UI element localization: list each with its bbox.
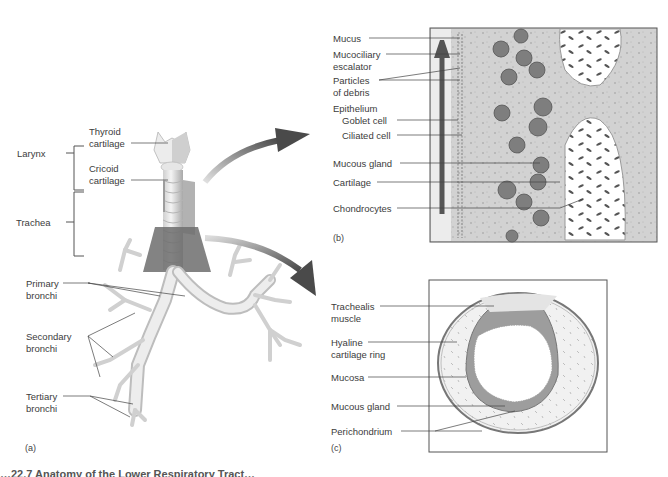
label-larynx: Larynx — [17, 148, 46, 159]
larynx-bracket — [66, 146, 84, 256]
larynx-illustration — [154, 132, 190, 172]
arrow-to-panel-b — [205, 128, 310, 182]
label-chondrocytes: Chondrocytes — [333, 203, 392, 214]
label-mucous-gland-b: Mucous gland — [333, 158, 392, 169]
panel-b-tag: (b) — [333, 233, 344, 243]
label-cartilage: Cartilage — [333, 177, 371, 188]
label-trachealis-muscle-line1: Trachealis — [331, 301, 374, 312]
label-particles-of-debris-line2: of debris — [333, 87, 369, 98]
label-mucous-gland-c: Mucous gland — [331, 401, 390, 412]
label-thyroid-cartilage-line1: Thyroid — [89, 126, 121, 137]
label-perichondrium: Perichondrium — [331, 426, 392, 437]
label-cricoid-cartilage-line1: Cricoid — [89, 163, 119, 174]
label-secondary-bronchi-line1: Secondary — [26, 331, 71, 342]
label-particles-of-debris-line1: Particles — [333, 75, 369, 86]
label-primary-bronchi-line2: bronchi — [26, 290, 57, 301]
label-trachea: Trachea — [16, 217, 51, 228]
panel-a-tag: (a) — [25, 443, 36, 453]
label-mucosa: Mucosa — [331, 372, 364, 383]
label-tertiary-bronchi-line2: bronchi — [26, 403, 57, 414]
label-secondary-bronchi-line2: bronchi — [26, 343, 57, 354]
label-hyaline-cartilage-ring-line1: Hyaline — [331, 337, 363, 348]
cross-section-plane — [143, 227, 211, 272]
label-primary-bronchi-line1: Primary — [26, 278, 59, 289]
label-thyroid-cartilage-line2: cartilage — [89, 138, 125, 149]
label-mucociliary-escalator-line2: escalator — [333, 61, 372, 72]
panel-c-tag: (c) — [331, 443, 342, 453]
label-mucociliary-escalator-line1: Mucociliary — [333, 49, 381, 60]
panel-b-micrograph — [430, 28, 657, 242]
label-hyaline-cartilage-ring-line2: cartilage ring — [331, 349, 385, 360]
label-mucus: Mucus — [333, 33, 361, 44]
label-tertiary-bronchi-line1: Tertiary — [26, 391, 57, 402]
label-ciliated-cell: Ciliated cell — [342, 130, 391, 141]
label-epithelium: Epithelium — [333, 103, 377, 114]
label-trachealis-muscle-line2: muscle — [331, 313, 361, 324]
label-goblet-cell: Goblet cell — [342, 115, 387, 126]
label-cricoid-cartilage-line2: cartilage — [89, 175, 125, 186]
figure-caption: …22.7 Anatomy of the Lower Respiratory T… — [0, 468, 255, 477]
trachea-illustration — [143, 170, 211, 272]
